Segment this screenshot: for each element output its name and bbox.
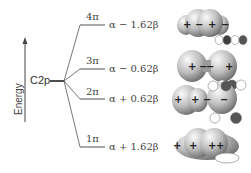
svg-text:+: + (174, 94, 182, 105)
level-energy-3pi: α − 0.62β (109, 63, 159, 74)
svg-text:+: + (216, 140, 224, 151)
svg-text:+: + (173, 140, 181, 151)
svg-text:−: − (195, 19, 203, 30)
connector-lines (64, 25, 80, 147)
svg-text:−: − (206, 61, 214, 72)
svg-text:+: + (208, 19, 216, 30)
svg-text:+: + (191, 94, 199, 105)
orbital-1pi: + + + + (173, 128, 239, 163)
level-energy-4pi: α − 1.62β (109, 19, 159, 30)
svg-text:−: − (221, 19, 229, 30)
svg-text:+: + (188, 61, 196, 72)
level-energy-1pi: α + 1.62β (109, 141, 159, 152)
level-name-2pi: 2π (86, 86, 99, 97)
orbital-2pi: + + − − (172, 81, 242, 124)
level-name-4pi: 4π (86, 11, 99, 22)
c2p-label: C2p (30, 74, 50, 86)
level-name-1pi: 1π (86, 133, 99, 144)
level-name-3pi: 3π (86, 55, 99, 66)
orbital-4pi: + − + − (177, 9, 247, 45)
svg-text:−: − (220, 94, 228, 105)
svg-text:+: + (225, 61, 233, 72)
svg-text:−: − (203, 94, 211, 105)
level-energy-2pi: α + 0.62β (109, 93, 159, 104)
svg-text:+: + (183, 19, 191, 30)
svg-text:+: + (189, 140, 197, 151)
energy-axis-label: Energy (13, 83, 24, 115)
